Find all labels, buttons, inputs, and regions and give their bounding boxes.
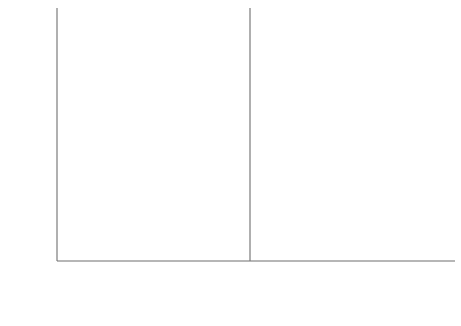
price-index-chart [0,0,461,326]
chart-svg [0,0,461,326]
